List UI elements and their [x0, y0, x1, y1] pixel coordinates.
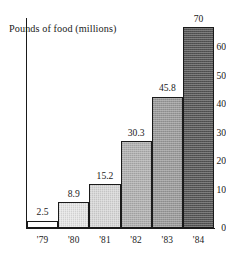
- bar-80: [58, 202, 89, 228]
- x-tick-label-81: '81: [89, 236, 120, 245]
- bar-value-label-84: 70: [194, 14, 204, 24]
- bar-83: [152, 97, 183, 228]
- bar-chart: Pounds of food (millions) 60 50 40 30 20…: [0, 0, 226, 262]
- bar-value-label-82: 30.3: [128, 128, 145, 138]
- bar-81: [89, 184, 120, 228]
- x-tick-label-83: '83: [152, 236, 183, 245]
- x-tick-label-82: '82: [121, 236, 152, 245]
- bar-slot-81: 15.2: [89, 0, 120, 228]
- bar-84: [183, 27, 214, 228]
- bar-value-label-80: 8.9: [68, 189, 80, 199]
- bar-79: [27, 221, 58, 228]
- x-tick-label-84: '84: [183, 236, 214, 245]
- plot-area: 60 50 40 30 20 10 0 2.5 8.9: [0, 0, 226, 262]
- bar-value-label-81: 15.2: [97, 171, 114, 181]
- bar-texture-84: [184, 28, 213, 227]
- bar-slot-84: 70: [183, 0, 214, 228]
- x-tick-label-80: '80: [58, 236, 89, 245]
- x-axis-line: [26, 228, 215, 229]
- bars-group: 2.5 8.9 15.2 30.3: [27, 0, 214, 228]
- bar-slot-80: 8.9: [58, 0, 89, 228]
- x-tick-label-79: '79: [27, 236, 58, 245]
- bar-82: [121, 141, 152, 228]
- bar-value-label-83: 45.8: [159, 83, 176, 93]
- bar-slot-79: 2.5: [27, 0, 58, 228]
- bar-texture-80: [59, 203, 88, 227]
- bar-value-label-79: 2.5: [37, 207, 49, 217]
- bar-texture-82: [122, 142, 151, 227]
- bar-texture-83: [153, 98, 182, 227]
- bar-texture-81: [90, 185, 119, 227]
- bar-slot-83: 45.8: [152, 0, 183, 228]
- bar-slot-82: 30.3: [121, 0, 152, 228]
